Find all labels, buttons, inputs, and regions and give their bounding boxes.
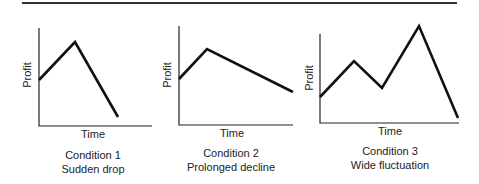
chart-3-line [320,26,458,118]
chart-3 [320,26,459,123]
chart-2 [179,26,293,125]
chart-3-title: Condition 3 [320,144,460,158]
chart-3-xlabel: Time [375,125,405,137]
chart-1 [39,28,152,126]
chart-3-subtitle: Wide fluctuation [320,158,460,172]
chart-2-caption: Condition 2 Prolonged decline [161,146,301,174]
chart-1-line [39,42,118,117]
chart-1-subtitle: Sudden drop [23,162,163,176]
chart-1-ylabel: Profit [21,62,33,88]
chart-2-subtitle: Prolonged decline [161,160,301,174]
chart-3-ylabel: Profit [303,65,315,91]
chart-2-ylabel: Profit [161,62,173,88]
chart-3-caption: Condition 3 Wide fluctuation [320,144,460,172]
chart-2-line [179,49,293,92]
chart-1-xlabel: Time [78,128,108,140]
chart-3-axes [320,34,459,123]
chart-2-xlabel: Time [217,127,247,139]
chart-2-axes [179,26,293,125]
chart-1-caption: Condition 1 Sudden drop [23,148,163,176]
chart-2-title: Condition 2 [161,146,301,160]
chart-1-title: Condition 1 [23,148,163,162]
